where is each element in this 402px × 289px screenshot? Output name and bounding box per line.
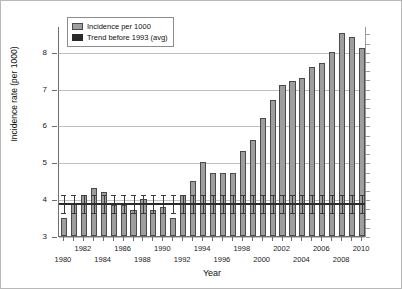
error-bar-cap-upper: [320, 195, 325, 196]
error-bar-cap-lower: [300, 213, 305, 214]
y-tick-label: 6: [33, 122, 47, 130]
right-axis-tick: [366, 108, 370, 109]
error-bar-cap-upper: [191, 195, 196, 196]
bar: [260, 118, 266, 236]
right-axis-tick: [366, 209, 370, 210]
error-bar-cap-lower: [240, 213, 245, 214]
error-bar-cap-upper: [211, 195, 216, 196]
error-bar-cap-upper: [230, 195, 235, 196]
legend-label-trend: Trend before 1993 (avg): [87, 33, 168, 42]
x-tick-mark: [202, 237, 203, 241]
x-tick-mark: [321, 237, 322, 241]
right-axis-tick: [366, 126, 370, 127]
right-axis-tick: [366, 99, 370, 100]
x-tick-mark: [113, 237, 114, 241]
error-bar-cap-upper: [181, 195, 186, 196]
error-bar-cap-upper: [161, 195, 166, 196]
x-tick-mark: [133, 237, 134, 241]
right-axis-tick: [366, 71, 370, 72]
x-tick-mark: [172, 237, 173, 241]
y-tick-mark: [52, 90, 57, 91]
x-tick-mark: [222, 237, 223, 241]
legend-swatch-incidence-icon: [72, 23, 83, 30]
x-tick-label: 2002: [267, 244, 297, 253]
x-tick-label: 2000: [247, 255, 277, 264]
x-tick-mark: [73, 237, 74, 241]
bar: [61, 218, 67, 236]
y-tick-mark: [52, 163, 57, 164]
error-bar-cap-lower: [230, 213, 235, 214]
legend-label-incidence: Incidence per 1000: [87, 22, 151, 31]
bar: [270, 100, 276, 236]
y-tick-label: 7: [33, 86, 47, 94]
x-tick-mark: [272, 237, 273, 241]
error-bar-cap-upper: [260, 195, 265, 196]
bar: [250, 140, 256, 236]
x-tick-mark: [351, 237, 352, 241]
x-tick-label: 1980: [48, 255, 78, 264]
x-tick-label: 1990: [147, 244, 177, 253]
x-tick-mark: [331, 237, 332, 241]
right-axis-tick: [366, 237, 370, 238]
bar: [240, 151, 246, 236]
x-tick-mark: [142, 237, 143, 241]
right-axis-tick: [366, 182, 370, 183]
error-bar-cap-upper: [340, 195, 345, 196]
error-bar-cap-upper: [91, 195, 96, 196]
right-axis-tick: [366, 136, 370, 137]
error-bar-cap-upper: [240, 195, 245, 196]
error-bar-cap-upper: [71, 195, 76, 196]
right-axis-tick: [366, 34, 370, 35]
right-axis-tick: [366, 154, 370, 155]
x-tick-label: 1994: [187, 244, 217, 253]
right-axis-tick: [366, 163, 370, 164]
bar: [170, 218, 176, 236]
legend-item-incidence: Incidence per 1000: [72, 21, 168, 32]
right-axis-tick: [366, 145, 370, 146]
x-tick-mark: [291, 237, 292, 241]
y-tick-mark: [52, 237, 57, 238]
error-bar-cap-upper: [81, 195, 86, 196]
error-bar-cap-upper: [201, 195, 206, 196]
error-bar-cap-lower: [260, 213, 265, 214]
error-bar-cap-lower: [61, 213, 66, 214]
error-bar-cap-lower: [171, 213, 176, 214]
x-tick-label: 2008: [326, 255, 356, 264]
error-bar-cap-upper: [61, 195, 66, 196]
x-tick-mark: [301, 237, 302, 241]
x-tick-label: 2006: [306, 244, 336, 253]
error-bar-cap-lower: [131, 213, 136, 214]
error-bar-cap-lower: [111, 213, 116, 214]
plot-area: [58, 27, 366, 237]
error-bar-cap-upper: [290, 195, 295, 196]
legend-swatch-trend-icon: [72, 34, 83, 41]
bar: [130, 210, 136, 236]
y-tick-label: 5: [33, 159, 47, 167]
error-bar-cap-upper: [300, 195, 305, 196]
error-bar-cap-lower: [340, 213, 345, 214]
right-axis-tick: [366, 173, 370, 174]
error-bar-cap-lower: [270, 213, 275, 214]
error-bar-cap-lower: [161, 213, 166, 214]
error-bar-cap-lower: [220, 213, 225, 214]
right-axis-tick: [366, 44, 370, 45]
error-bar-cap-lower: [101, 213, 106, 214]
error-bar-cap-lower: [181, 213, 186, 214]
x-tick-label: 1988: [127, 255, 157, 264]
right-axis-tick: [366, 228, 370, 229]
y-tick-label: 3: [33, 233, 47, 241]
error-bar-cap-upper: [330, 195, 335, 196]
error-bar-cap-lower: [250, 213, 255, 214]
y-tick-mark: [52, 200, 57, 201]
error-bar-cap-upper: [131, 195, 136, 196]
chart-legend: Incidence per 1000 Trend before 1993 (av…: [67, 17, 174, 47]
right-axis-tick: [366, 53, 370, 54]
right-axis-tick: [366, 62, 370, 63]
error-bar-cap-lower: [320, 213, 325, 214]
right-axis-tick: [366, 200, 370, 201]
x-tick-label: 1986: [108, 244, 138, 253]
error-bar-cap-lower: [191, 213, 196, 214]
x-tick-mark: [123, 237, 124, 241]
y-axis-title: Incidence rate (per 1000): [9, 19, 19, 169]
x-tick-mark: [63, 237, 64, 241]
